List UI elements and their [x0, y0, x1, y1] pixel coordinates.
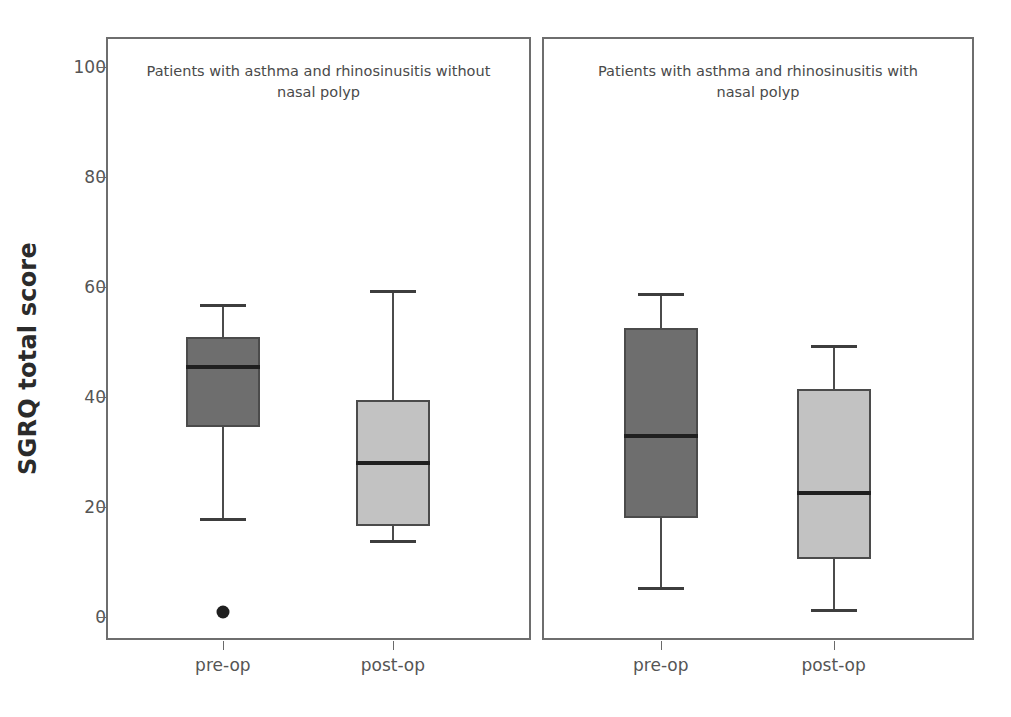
median-line — [797, 491, 871, 495]
upper-whisker-cap — [370, 290, 416, 293]
median-line — [624, 434, 698, 438]
x-tick-mark — [834, 641, 835, 650]
y-axis-title: SGRQ total score — [0, 0, 56, 717]
y-tick-mark — [97, 617, 106, 618]
x-tick-mark — [393, 641, 394, 650]
upper-whisker-cap — [200, 304, 246, 307]
upper-whisker-line — [833, 345, 835, 389]
box-iqr[interactable] — [186, 337, 260, 428]
upper-whisker-line — [222, 304, 224, 337]
x-tick-mark — [223, 641, 224, 650]
x-tick-label-post-op: post-op — [361, 655, 425, 675]
lower-whisker-cap — [200, 518, 246, 521]
y-tick-mark — [97, 507, 106, 508]
lower-whisker-line — [222, 427, 224, 518]
x-tick-mark — [661, 641, 662, 650]
panel-without-nasal-polyp: Patients with asthma and rhinosinusitis … — [106, 37, 531, 640]
upper-whisker-line — [660, 293, 662, 329]
panel-title: Patients with asthma and rhinosinusitis … — [578, 61, 938, 103]
lower-whisker-line — [833, 559, 835, 609]
panel-title: Patients with asthma and rhinosinusitis … — [142, 61, 496, 103]
panel-with-nasal-polyp: Patients with asthma and rhinosinusitis … — [542, 37, 974, 640]
upper-whisker-cap — [638, 293, 684, 296]
median-line — [356, 461, 430, 465]
x-tick-label-pre-op: pre-op — [633, 655, 689, 675]
y-axis: 020406080100 — [58, 0, 106, 717]
lower-whisker-cap — [811, 609, 857, 612]
y-tick-mark — [97, 287, 106, 288]
lower-whisker-cap — [370, 540, 416, 543]
lower-whisker-line — [392, 526, 394, 540]
lower-whisker-line — [660, 518, 662, 587]
boxplot-figure: SGRQ total score 020406080100 Patients w… — [0, 0, 1011, 717]
y-tick-mark — [97, 67, 106, 68]
upper-whisker-line — [392, 290, 394, 400]
x-tick-label-pre-op: pre-op — [195, 655, 251, 675]
y-tick-mark — [97, 177, 106, 178]
outlier-point[interactable] — [216, 605, 229, 618]
box-iqr[interactable] — [797, 389, 871, 560]
x-tick-label-post-op: post-op — [801, 655, 865, 675]
lower-whisker-cap — [638, 587, 684, 590]
y-tick-mark — [97, 397, 106, 398]
median-line — [186, 365, 260, 369]
box-iqr[interactable] — [624, 328, 698, 518]
y-axis-title-label: SGRQ total score — [14, 242, 42, 475]
upper-whisker-cap — [811, 345, 857, 348]
